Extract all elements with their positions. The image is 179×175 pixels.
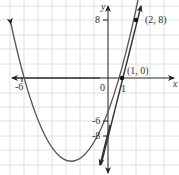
point-1-0 <box>120 76 124 80</box>
tick-y-neg8: -8 <box>92 130 100 141</box>
x-axis-label: x <box>172 78 178 89</box>
y-axis-label: y <box>100 1 106 12</box>
parabola <box>11 0 138 161</box>
tick-x-1: 1 <box>121 83 126 94</box>
point-2-8 <box>134 18 138 22</box>
tick-y-neg6: -6 <box>92 115 100 126</box>
plot-area: y x 8 -6 -8 -6 0 1 (2, 8) (1, 0) <box>0 0 179 175</box>
tick-x-neg6: -6 <box>15 81 23 92</box>
graph: y x 8 -6 -8 -6 0 1 (2, 8) (1, 0) <box>0 0 179 175</box>
point-label-1-0: (1, 0) <box>127 65 149 77</box>
tick-y-8: 8 <box>95 14 100 25</box>
point-label-2-8: (2, 8) <box>145 14 167 26</box>
origin-label: 0 <box>100 82 105 93</box>
